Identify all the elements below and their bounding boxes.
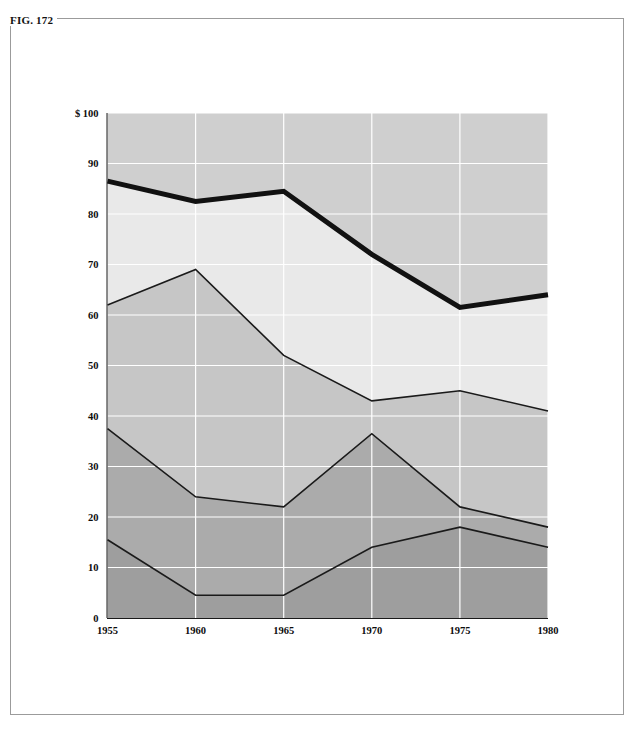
y-tick-label-40: 40 — [88, 411, 99, 422]
y-tick-label-80: 80 — [88, 209, 99, 220]
y-tick-label-70: 70 — [88, 259, 99, 270]
y-tick-label-0: 0 — [93, 613, 98, 624]
y-axis-tick-labels: 0102030405060708090$ 100 — [75, 108, 99, 624]
y-tick-label-50: 50 — [88, 360, 99, 371]
x-tick-label-1975: 1975 — [449, 625, 470, 636]
x-tick-label-1980: 1980 — [538, 625, 559, 636]
x-tick-label-1970: 1970 — [361, 625, 382, 636]
x-tick-label-1965: 1965 — [273, 625, 294, 636]
x-tick-label-1960: 1960 — [185, 625, 206, 636]
figure-label: FIG. 172 — [8, 14, 57, 26]
y-tick-label-10: 10 — [88, 562, 99, 573]
x-axis-tick-labels: 195519601965197019751980 — [97, 625, 559, 636]
area-chart: 0102030405060708090$ 100 195519601965197… — [0, 0, 638, 733]
x-tick-label-1955: 1955 — [97, 625, 118, 636]
chart-svg: 0102030405060708090$ 100 195519601965197… — [0, 0, 638, 733]
y-tick-label-90: 90 — [88, 158, 99, 169]
y-tick-label-30: 30 — [88, 461, 99, 472]
y-tick-label-100: $ 100 — [75, 108, 99, 119]
y-tick-label-20: 20 — [88, 512, 99, 523]
y-tick-label-60: 60 — [88, 310, 99, 321]
